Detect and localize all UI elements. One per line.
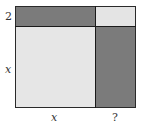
label-bottom-right: ? [112,112,118,123]
outer-border [15,6,136,108]
label-left-top: 2 [5,11,12,22]
label-bottom-main: x [51,112,57,123]
horizontal-divider [15,26,136,27]
vertical-divider [95,6,96,108]
label-left-main: x [5,64,11,75]
area-model-diagram: 2 x x ? [0,0,144,134]
